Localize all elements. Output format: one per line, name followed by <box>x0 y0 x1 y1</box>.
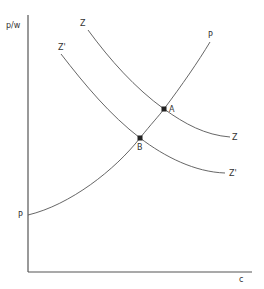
point-a-label: A <box>169 105 175 114</box>
diagram-canvas: p/w c P P Z Z Z' Z' A B <box>0 0 264 289</box>
point-b-label: B <box>137 143 143 152</box>
curve-z-prime-end-label: Z' <box>229 169 237 178</box>
curve-z-prime <box>61 54 225 173</box>
curve-z-prime-start-label: Z' <box>58 43 66 52</box>
curve-z <box>88 30 230 137</box>
curve-z-start-label: Z <box>80 19 86 28</box>
x-axis-label: c <box>239 275 243 284</box>
curve-z-end-label: Z <box>232 133 238 142</box>
point-b-marker <box>138 136 143 141</box>
point-a-marker <box>162 107 167 112</box>
curve-p-start-label: P <box>18 211 23 220</box>
y-axis-label: p/w <box>6 21 21 30</box>
curve-p-end-label: P <box>208 31 213 40</box>
